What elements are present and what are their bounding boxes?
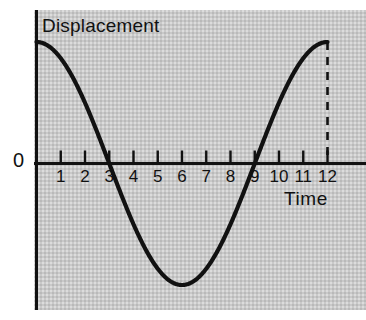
chart-canvas bbox=[0, 0, 366, 320]
x-axis-tick-label-9: 9 bbox=[250, 168, 259, 185]
x-axis-tick-label-11: 11 bbox=[294, 168, 312, 185]
x-axis-tick-label-5: 5 bbox=[153, 168, 162, 185]
x-axis-tick-label-4: 4 bbox=[129, 168, 138, 185]
origin-label: 0 bbox=[13, 150, 24, 170]
x-axis-tick-label-2: 2 bbox=[80, 168, 89, 185]
displacement-time-figure: Displacement 0 Time 123456789101112 bbox=[0, 0, 366, 320]
y-axis-title: Displacement bbox=[42, 16, 160, 35]
x-axis-tick-label-3: 3 bbox=[105, 168, 114, 185]
x-axis-title: Time bbox=[284, 189, 328, 208]
x-axis-tick-label-8: 8 bbox=[226, 168, 235, 185]
x-axis-tick-label-1: 1 bbox=[56, 168, 65, 185]
x-axis-tick-label-6: 6 bbox=[177, 168, 186, 185]
x-axis-tick-label-10: 10 bbox=[270, 168, 289, 185]
x-axis-tick-label-12: 12 bbox=[318, 168, 337, 185]
x-axis-tick-label-7: 7 bbox=[202, 168, 211, 185]
x-axis-tick-marks bbox=[61, 151, 328, 163]
